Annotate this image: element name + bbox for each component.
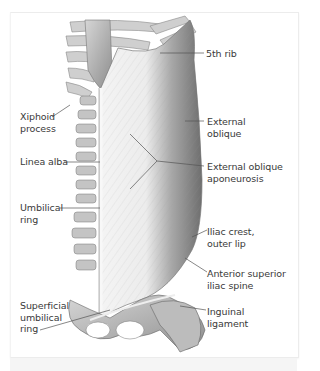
label-iliac-crest-outer-lip: Iliac crest, outer lip <box>207 226 254 249</box>
label-inguinal-ligament: Inguinal ligament <box>207 306 248 329</box>
label-5th-rib: 5th rib <box>206 48 237 60</box>
label-xiphoid-process: Xiphoid process <box>20 111 56 134</box>
label-superficial-umbilical-ring: Superficial umbilical ring <box>20 300 69 335</box>
label-external-oblique: External oblique <box>207 116 246 139</box>
label-external-oblique-aponeurosis: External oblique aponeurosis <box>207 161 283 184</box>
label-linea-alba: Linea alba <box>20 156 68 168</box>
label-anterior-superior-iliac-spine: Anterior superior iliac spine <box>207 268 286 291</box>
vertebrae <box>72 96 96 270</box>
label-umbilical-ring: Umbilical ring <box>20 202 63 225</box>
